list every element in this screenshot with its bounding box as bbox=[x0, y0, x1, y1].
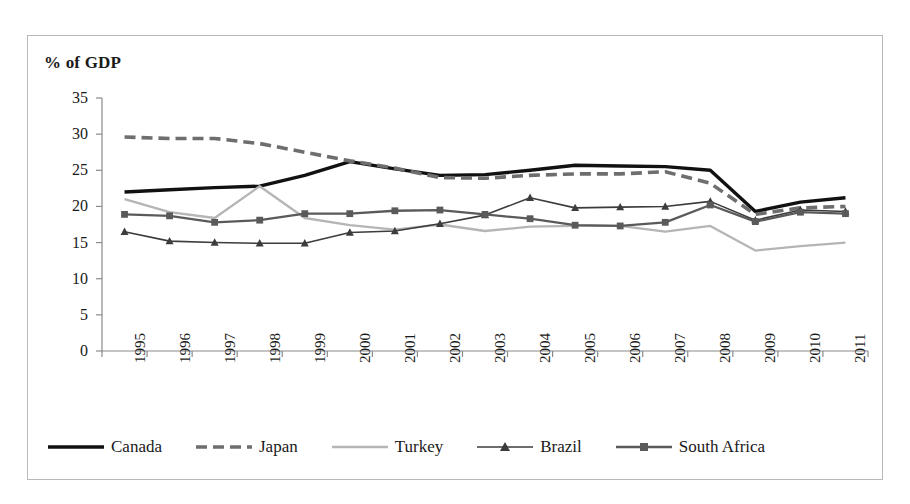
legend-label: Brazil bbox=[540, 437, 582, 457]
x-axis-tick-label: 1996 bbox=[177, 333, 194, 363]
series-marker bbox=[211, 219, 218, 226]
y-axis-tick-label: 25 bbox=[54, 161, 88, 179]
y-axis-tick-label: 30 bbox=[54, 125, 88, 143]
series-brazil bbox=[121, 194, 850, 247]
legend-label: Canada bbox=[111, 437, 162, 457]
x-axis-tick-label: 2007 bbox=[672, 333, 689, 363]
y-axis-tick-label: 15 bbox=[54, 234, 88, 252]
series-layer bbox=[121, 137, 850, 250]
series-marker bbox=[121, 228, 129, 235]
legend-item-turkey[interactable]: Turkey bbox=[332, 437, 444, 457]
series-marker bbox=[121, 211, 128, 218]
chart-plot-svg bbox=[28, 36, 884, 481]
x-axis-tick-label: 2001 bbox=[402, 333, 419, 363]
series-marker bbox=[391, 207, 398, 214]
x-axis-tick-label: 2004 bbox=[537, 333, 554, 363]
series-marker bbox=[527, 215, 534, 222]
chart-figure-frame: % of GDP 05101520253035 1995199619971998… bbox=[27, 35, 883, 480]
legend-swatch-icon bbox=[616, 440, 672, 454]
x-axis-tick-label: 2006 bbox=[627, 333, 644, 363]
x-axis-tick-label: 2009 bbox=[762, 333, 779, 363]
y-axis-tick-label: 10 bbox=[54, 270, 88, 288]
series-marker bbox=[256, 217, 263, 224]
legend-swatch-icon bbox=[332, 440, 388, 454]
series-marker bbox=[842, 210, 849, 217]
series-marker bbox=[617, 223, 624, 230]
series-marker bbox=[437, 207, 444, 214]
legend-item-south-africa[interactable]: South Africa bbox=[616, 437, 765, 457]
legend-label: South Africa bbox=[679, 437, 765, 457]
chart-legend: CanadaJapanTurkeyBrazilSouth Africa bbox=[48, 427, 868, 467]
legend-swatch-icon bbox=[48, 440, 104, 454]
x-axis-tick-label: 1999 bbox=[312, 333, 329, 363]
legend-item-canada[interactable]: Canada bbox=[48, 437, 162, 457]
series-marker bbox=[662, 219, 669, 226]
x-axis-tick-label: 2005 bbox=[582, 333, 599, 363]
x-axis-tick-label: 1998 bbox=[267, 333, 284, 363]
series-marker bbox=[707, 202, 714, 209]
y-axis-tick-label: 35 bbox=[54, 89, 88, 107]
x-axis-tick-label: 2010 bbox=[807, 333, 824, 363]
series-marker bbox=[301, 210, 308, 217]
legend-swatch-icon bbox=[196, 440, 252, 454]
series-marker bbox=[166, 212, 173, 219]
series-marker bbox=[346, 210, 353, 217]
series-marker bbox=[572, 222, 579, 229]
y-axis-tick-label: 20 bbox=[54, 197, 88, 215]
series-marker bbox=[797, 209, 804, 216]
x-axis-tick-label: 2000 bbox=[357, 333, 374, 363]
x-axis-tick-label: 2011 bbox=[852, 334, 869, 363]
x-axis-tick-label: 1997 bbox=[222, 333, 239, 363]
series-marker bbox=[482, 211, 489, 218]
y-axis-tick-label: 5 bbox=[54, 306, 88, 324]
legend-swatch-icon bbox=[477, 440, 533, 454]
series-marker bbox=[526, 194, 534, 201]
x-axis-tick-label: 2002 bbox=[447, 333, 464, 363]
y-axis-tick-label: 0 bbox=[54, 342, 88, 360]
plot-area: 05101520253035 1995199619971998199920002… bbox=[28, 36, 884, 481]
legend-item-brazil[interactable]: Brazil bbox=[477, 437, 582, 457]
series-marker bbox=[752, 218, 759, 225]
x-axis-tick-label: 1995 bbox=[132, 333, 149, 363]
legend-item-japan[interactable]: Japan bbox=[196, 437, 298, 457]
x-axis-tick-label: 2003 bbox=[492, 333, 509, 363]
x-axis-tick-label: 2008 bbox=[717, 333, 734, 363]
legend-label: Turkey bbox=[395, 437, 444, 457]
legend-label: Japan bbox=[259, 437, 298, 457]
